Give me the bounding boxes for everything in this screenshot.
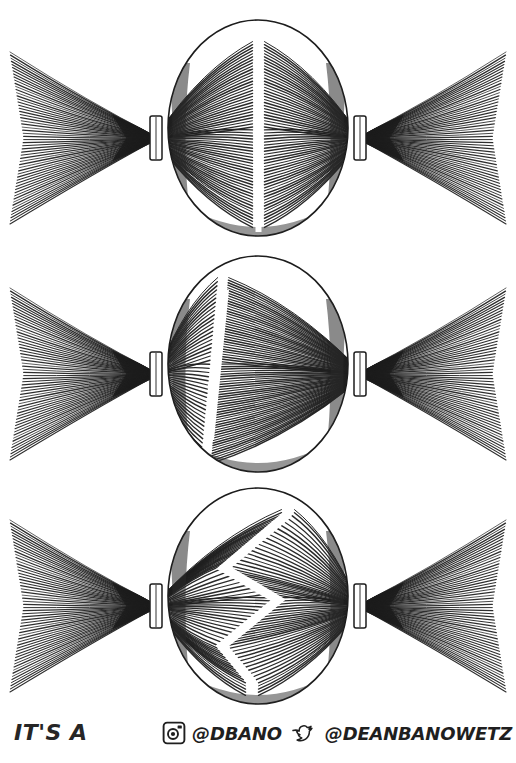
social-item-instagram[interactable]: @DBANO: [162, 721, 282, 745]
right-hair-tie: [354, 584, 366, 628]
illustration-page: IT'S A @DBANO: [0, 0, 516, 763]
panel-straight-center-part: [0, 8, 516, 244]
left-hair-tie: [150, 116, 162, 160]
footer: IT'S A @DBANO: [0, 712, 516, 763]
panel-side-part: [0, 244, 516, 482]
caption-text: IT'S A: [14, 720, 87, 745]
part-line-straight: [256, 60, 262, 232]
right-pigtail: [363, 520, 506, 692]
right-hair-tie: [354, 116, 366, 160]
twitter-bird-icon: [291, 721, 319, 745]
right-hair-tie: [354, 352, 366, 396]
twitter-handle: @DEANBANOWETZ: [325, 723, 512, 744]
left-hair-tie: [150, 584, 162, 628]
right-pigtail: [363, 52, 506, 224]
instagram-handle: @DBANO: [192, 723, 282, 744]
panel-2-artwork: [0, 244, 516, 482]
panel-zigzag-part: [0, 478, 516, 710]
right-pigtail: [363, 288, 506, 460]
left-pigtail: [10, 520, 153, 692]
panel-1-artwork: [0, 8, 516, 244]
left-pigtail: [10, 288, 153, 460]
left-hair-tie: [150, 352, 162, 396]
social-handles-group: @DBANO @DEANBANOWETZ: [162, 721, 512, 745]
panel-3-artwork: [0, 478, 516, 710]
instagram-icon: [162, 721, 186, 745]
left-pigtail: [10, 52, 153, 224]
social-item-twitter[interactable]: @DEANBANOWETZ: [291, 721, 512, 745]
